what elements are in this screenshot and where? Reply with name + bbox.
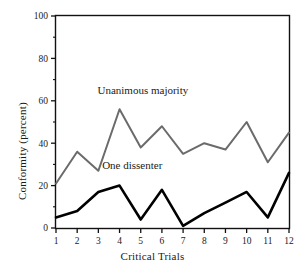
x-tick-label: 11 <box>263 236 272 246</box>
y-tick-label: 60 <box>39 96 49 106</box>
x-tick-label: 4 <box>117 236 122 246</box>
x-tick-label: 10 <box>242 236 252 246</box>
y-axis-title: Conformity (percent) <box>16 102 28 200</box>
plot-frame <box>56 16 290 229</box>
conformity-line-chart: 020406080100 123456789101112 Unanimous m… <box>0 0 305 275</box>
x-tick-label: 3 <box>96 236 101 246</box>
x-tick-label: 12 <box>284 236 294 246</box>
x-axis-tick-labels: 123456789101112 <box>54 236 294 246</box>
x-tick-label: 2 <box>75 236 80 246</box>
one-dissenter-label: One dissenter <box>102 159 163 171</box>
chart-figure: 020406080100 123456789101112 Unanimous m… <box>0 0 305 275</box>
x-tick-label: 1 <box>54 236 59 246</box>
y-tick-label: 0 <box>43 223 48 233</box>
x-tick-label: 6 <box>160 236 165 246</box>
x-tick-label: 9 <box>223 236 228 246</box>
y-axis-tick-labels: 020406080100 <box>34 11 49 233</box>
y-tick-label: 80 <box>39 54 49 64</box>
unanimous-majority-label: Unanimous majority <box>97 84 188 96</box>
y-tick-label: 40 <box>39 139 49 149</box>
x-tick-label: 7 <box>181 236 186 246</box>
y-tick-label: 100 <box>34 11 49 21</box>
x-tick-label: 5 <box>138 236 143 246</box>
y-tick-label: 20 <box>39 181 49 191</box>
x-tick-label: 8 <box>202 236 207 246</box>
x-axis-title: Critical Trials <box>0 250 305 262</box>
